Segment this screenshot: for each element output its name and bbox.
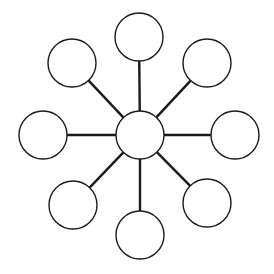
hub-spoke-diagram	[0, 0, 274, 274]
node-top-right	[183, 39, 231, 87]
center-node	[116, 111, 164, 159]
node-left	[19, 111, 67, 159]
node-bottom	[116, 211, 164, 259]
node-bottom-left	[49, 181, 97, 229]
connector-line-top-right	[156, 81, 190, 118]
diagram-nodes	[19, 13, 259, 259]
node-bottom-right	[183, 179, 231, 227]
connector-line-top	[139, 61, 140, 111]
connector-line-bottom-right	[157, 152, 190, 186]
node-top	[115, 13, 163, 61]
node-right	[211, 111, 259, 159]
connector-line-top-left	[88, 80, 123, 117]
connector-line-bottom-left	[90, 152, 124, 187]
node-top-left	[48, 39, 96, 87]
